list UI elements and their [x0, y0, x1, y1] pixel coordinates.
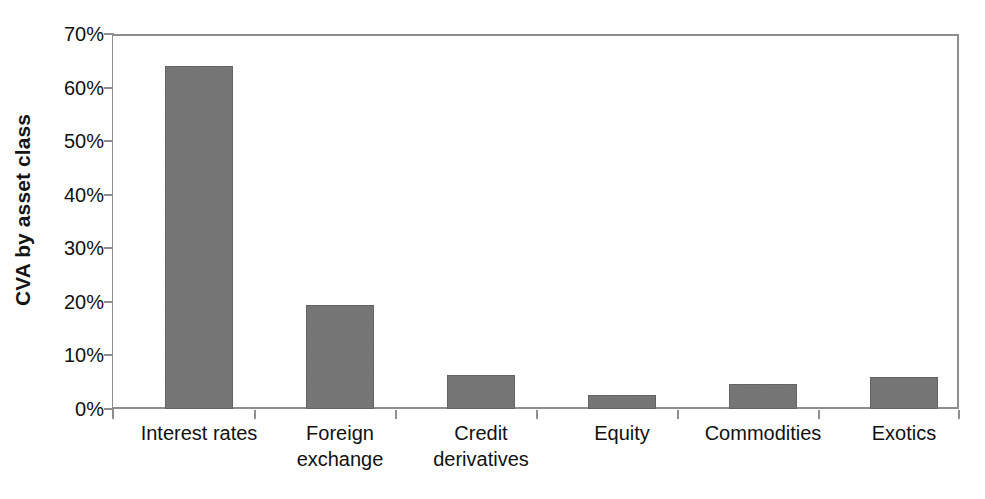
x-tick-mark-4 — [677, 410, 679, 419]
y-axis-tick-label-group: 0% 10% 20% 30% 40% 50% 60% 70% — [42, 34, 104, 409]
x-axis-tick-label-group: Interest rates Foreign exchange Credit d… — [113, 420, 959, 495]
y-tick-label-20: 20% — [42, 290, 104, 313]
y-axis-title: CVA by asset class — [0, 0, 46, 420]
x-tick-label-equity-line1: Equity — [594, 420, 650, 446]
x-tick-label-exotics: Exotics — [872, 420, 936, 446]
x-tick-label-interest-rates: Interest rates — [141, 420, 258, 446]
x-tick-label-interest-rates-line1: Interest rates — [141, 420, 258, 446]
y-tick-label-40: 40% — [42, 183, 104, 206]
x-tick-mark-2 — [395, 410, 397, 419]
y-tick-mark-20 — [104, 301, 113, 303]
bar-exotics — [870, 377, 938, 409]
x-tick-label-foreign-exchange: Foreign exchange — [297, 420, 384, 472]
x-tick-label-equity: Equity — [594, 420, 650, 446]
y-tick-label-30: 30% — [42, 237, 104, 260]
x-tick-mark-1 — [254, 410, 256, 419]
bar-interest-rates — [165, 66, 233, 409]
y-tick-mark-30 — [104, 247, 113, 249]
y-tick-label-70: 70% — [42, 23, 104, 46]
bar-credit-derivatives — [447, 375, 515, 409]
y-tick-mark-50 — [104, 140, 113, 142]
x-tick-label-foreign-exchange-line2: exchange — [297, 446, 384, 472]
x-tick-label-credit-derivatives-line1: Credit — [433, 420, 529, 446]
x-tick-label-credit-derivatives: Credit derivatives — [433, 420, 529, 472]
bars-layer — [113, 34, 959, 409]
x-tick-label-credit-derivatives-line2: derivatives — [433, 446, 529, 472]
y-axis-title-text: CVA by asset class — [11, 114, 35, 306]
y-tick-mark-70 — [104, 33, 113, 35]
x-tick-mark-0 — [112, 410, 114, 419]
bar-commodities — [729, 384, 797, 409]
x-tick-mark-5 — [818, 410, 820, 419]
x-tick-mark-3 — [536, 410, 538, 419]
y-tick-mark-60 — [104, 87, 113, 89]
x-tick-label-exotics-line1: Exotics — [872, 420, 936, 446]
x-tick-mark-6 — [958, 410, 960, 419]
bar-equity — [588, 395, 656, 409]
y-tick-label-0: 0% — [42, 398, 104, 421]
y-tick-mark-10 — [104, 354, 113, 356]
y-tick-label-50: 50% — [42, 130, 104, 153]
y-tick-label-60: 60% — [42, 76, 104, 99]
x-tick-label-commodities: Commodities — [705, 420, 822, 446]
bar-foreign-exchange — [306, 305, 374, 409]
x-tick-label-foreign-exchange-line1: Foreign — [297, 420, 384, 446]
bar-chart-figure: CVA by asset class 0% 10% 20% 30% 40% 50… — [0, 0, 985, 499]
x-tick-label-commodities-line1: Commodities — [705, 420, 822, 446]
y-tick-mark-40 — [104, 194, 113, 196]
y-tick-label-10: 10% — [42, 344, 104, 367]
